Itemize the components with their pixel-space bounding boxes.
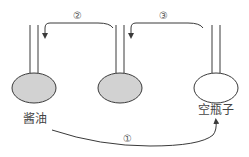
bottle-body <box>12 73 56 103</box>
swap-diagram: 酱油 空瓶子 ② ③ ① <box>0 0 249 157</box>
bottle-empty: 空瓶子 <box>194 25 238 117</box>
bottle-label-soy-sauce: 酱油 <box>23 111 47 126</box>
bottle-middle <box>98 25 142 103</box>
bottle-body <box>194 73 238 103</box>
arrow-step-1: ① <box>52 121 216 146</box>
bottle-soy-sauce: 酱油 <box>12 25 56 126</box>
arrow-step-3: ③ <box>131 10 203 36</box>
arrow-line <box>52 121 216 146</box>
arrow-line <box>131 23 203 36</box>
arrow-step-2: ② <box>45 10 113 36</box>
bottle-label-empty: 空瓶子 <box>198 103 234 117</box>
step-label-2: ② <box>73 10 82 21</box>
step-label-1: ① <box>123 133 132 144</box>
step-label-3: ③ <box>159 10 168 21</box>
arrow-line <box>45 23 113 36</box>
bottle-body <box>98 73 142 103</box>
